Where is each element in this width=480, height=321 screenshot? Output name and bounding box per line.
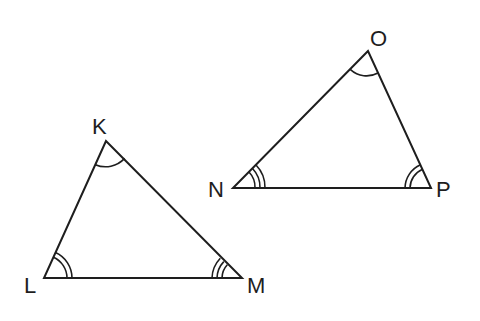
vertex-label-k: K [92, 114, 107, 139]
triangle-klm-edges [44, 141, 242, 278]
triangle-onp-edges [233, 51, 431, 188]
triangle-klm: K L M [24, 114, 265, 298]
angle-n-arc-3 [249, 172, 255, 188]
angle-p-arc-1 [405, 165, 421, 188]
triangle-onp: O N P [208, 26, 451, 202]
angle-m-arc-3 [222, 265, 227, 278]
vertex-label-n: N [208, 177, 224, 202]
similar-triangles-diagram: K L M O N P [0, 0, 480, 321]
vertex-label-o: O [370, 26, 387, 51]
vertex-label-m: M [247, 273, 265, 298]
angle-k-arc [95, 158, 124, 166]
vertex-label-p: P [436, 177, 451, 202]
angle-o-arc [351, 70, 379, 76]
vertex-label-l: L [24, 273, 36, 298]
